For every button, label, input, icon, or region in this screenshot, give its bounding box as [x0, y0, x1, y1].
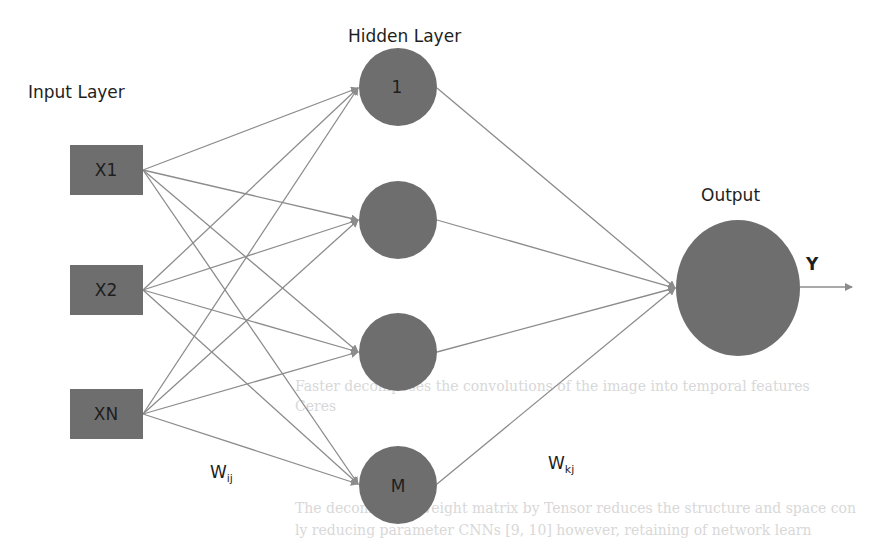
weight-ij-label: Wij	[210, 462, 233, 485]
output-y-label: Y	[806, 254, 818, 274]
weight-kj-base: W	[548, 453, 565, 473]
input-layer-label: Input Layer	[28, 82, 125, 102]
hidden-nodes	[359, 48, 437, 524]
edges-input-hidden	[143, 88, 358, 484]
neural-network-diagram: Faster decomposes the convolutions of th…	[0, 0, 879, 555]
output-label: Output	[701, 185, 760, 205]
weight-kj-label: Wkj	[548, 453, 574, 476]
hidden-node-m-label: M	[391, 476, 406, 496]
input-node-x2-label: X2	[95, 280, 117, 300]
hidden-node-2	[359, 181, 437, 259]
input-node-xn-label: XN	[94, 404, 118, 424]
network-graph	[0, 0, 879, 555]
hidden-node-3	[359, 313, 437, 391]
edges-hidden-output	[437, 88, 675, 484]
hidden-node-1-label: 1	[392, 77, 403, 97]
hidden-layer-label: Hidden Layer	[348, 26, 461, 46]
weight-kj-sub: kj	[565, 463, 574, 476]
weight-ij-sub: ij	[227, 472, 233, 485]
input-node-x1-label: X1	[95, 160, 117, 180]
weight-ij-base: W	[210, 462, 227, 482]
output-node	[676, 220, 800, 356]
